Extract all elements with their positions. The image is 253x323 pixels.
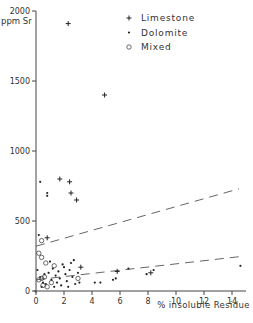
y-tick-label: 2000 (10, 7, 30, 16)
dot-marker-icon (63, 266, 65, 268)
circle-marker-icon (52, 264, 56, 268)
dot-marker-icon (46, 192, 48, 194)
dot-marker-icon (73, 259, 75, 261)
legend-label-dolomite: Dolomite (141, 28, 188, 38)
circle-marker-icon (44, 261, 48, 265)
y-tick-label: 500 (15, 217, 30, 226)
dot-marker-icon (38, 234, 40, 236)
circle-marker-icon (39, 238, 43, 242)
x-axis-label: % insoluble Residue (157, 300, 250, 310)
circle-marker-icon (41, 283, 45, 287)
circle-marker-icon (45, 285, 49, 289)
dot-marker-icon (71, 276, 73, 278)
dot-marker-icon (56, 282, 58, 284)
dot-marker-icon (74, 283, 76, 285)
y-tick-label: 1500 (10, 77, 30, 86)
data-points (36, 21, 241, 289)
dot-marker-icon (53, 286, 55, 288)
dot-marker-icon (46, 195, 48, 197)
dot-marker-icon (99, 282, 101, 284)
dot-marker-icon (153, 269, 155, 271)
dot-marker-icon (78, 282, 80, 284)
x-tick-label: 2 (61, 297, 66, 306)
dashed-trend-line (36, 257, 239, 280)
dot-marker-icon (62, 263, 64, 265)
dot-marker-icon (49, 261, 51, 263)
dot-marker-icon (55, 275, 57, 277)
y-tick-label: 1000 (10, 147, 30, 156)
series-mixed (37, 238, 81, 289)
series-limestone (45, 21, 154, 275)
scatter-chart: 050010001500200002468101214 LimestoneDol… (0, 0, 253, 323)
legend-label-limestone: Limestone (141, 13, 195, 23)
y-axis-label: ppm Sr (1, 16, 32, 26)
legend-label-mixed: Mixed (141, 42, 172, 52)
x-tick-label: 0 (33, 297, 38, 306)
dot-marker-icon (66, 280, 68, 282)
circle-marker-icon (49, 280, 53, 284)
dot-marker-icon (94, 282, 96, 284)
circle-marker-icon (127, 45, 131, 49)
dot-marker-icon (239, 265, 241, 267)
y-tick-label: 0 (25, 287, 30, 296)
dot-marker-icon (77, 272, 79, 274)
dot-marker-icon (64, 273, 66, 275)
dot-marker-icon (127, 268, 129, 270)
dot-marker-icon (146, 273, 148, 275)
dot-marker-icon (59, 277, 61, 279)
circle-marker-icon (37, 251, 41, 255)
dot-marker-icon (39, 181, 41, 183)
x-tick-label: 8 (145, 297, 150, 306)
x-tick-label: 6 (117, 297, 122, 306)
circle-marker-icon (39, 255, 43, 259)
trend-lines (36, 189, 239, 280)
dot-marker-icon (69, 269, 71, 271)
circle-marker-icon (76, 276, 80, 280)
dot-marker-icon (128, 31, 130, 33)
dot-marker-icon (115, 277, 117, 279)
dot-marker-icon (70, 262, 72, 264)
dot-marker-icon (112, 279, 114, 281)
dot-marker-icon (36, 269, 38, 271)
dot-marker-icon (48, 272, 50, 274)
dot-marker-icon (57, 270, 59, 272)
dot-marker-icon (60, 284, 62, 286)
x-tick-label: 4 (89, 297, 94, 306)
dashed-trend-line (36, 189, 239, 246)
legend: LimestoneDolomiteMixed (127, 13, 195, 52)
dot-marker-icon (67, 286, 69, 288)
